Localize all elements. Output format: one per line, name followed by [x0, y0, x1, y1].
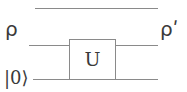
wire-middle-left	[29, 45, 70, 46]
output-state-label: ρʹ	[160, 19, 178, 39]
wire-middle-right	[115, 45, 158, 46]
wire-bottom-left	[33, 79, 70, 80]
gate-box-u: U	[69, 39, 116, 80]
gate-label-u: U	[84, 50, 100, 69]
input-state-label: ρ	[5, 19, 18, 39]
quantum-circuit-diagram: U ρ ρʹ |0⟩	[0, 0, 187, 92]
wire-top	[35, 8, 158, 9]
ancilla-state-label: |0⟩	[4, 69, 29, 87]
wire-bottom-right	[115, 79, 158, 80]
